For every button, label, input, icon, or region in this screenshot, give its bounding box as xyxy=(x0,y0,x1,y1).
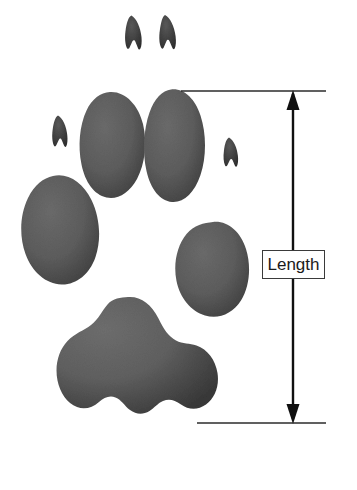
claw-front-left-icon xyxy=(125,16,142,50)
arrow-up-head-icon xyxy=(287,90,300,110)
paw-print-illustration xyxy=(0,0,357,490)
toe-pad-inner-right xyxy=(144,89,205,202)
length-label-text: Length xyxy=(268,256,320,273)
toe-pad-outer-right xyxy=(175,222,249,317)
arrow-down-head-icon xyxy=(287,404,300,424)
paw-print-diagram: Length xyxy=(0,0,357,490)
length-label-box: Length xyxy=(262,250,325,279)
claw-outer-left-icon xyxy=(52,116,67,147)
metacarpal-pad xyxy=(57,297,218,414)
claw-outer-right-icon xyxy=(224,138,239,167)
claw-front-right-icon xyxy=(159,15,176,49)
toe-pad-outer-left xyxy=(21,175,99,284)
toe-pad-inner-left xyxy=(80,92,146,198)
